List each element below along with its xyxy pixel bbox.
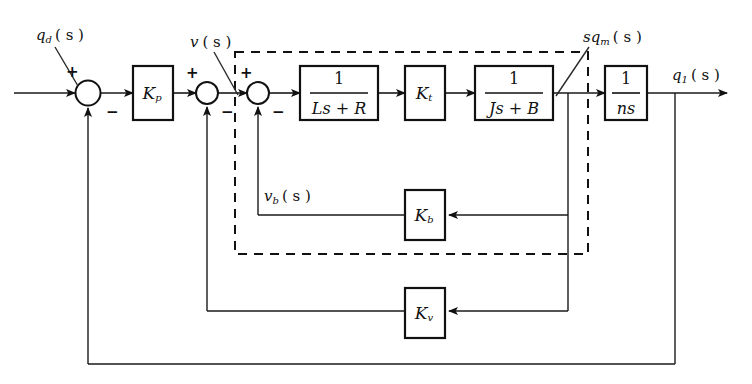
position-error-summing-junction [76, 81, 101, 106]
sum2-plus-sign: + [186, 64, 199, 82]
gear-denominator: ns [617, 99, 636, 118]
electrical-numerator: 1 [334, 69, 344, 88]
velocity-feedback-path [207, 107, 568, 311]
input-signal-label: qd( s ) [36, 26, 84, 45]
sum3-plus-sign: + [240, 64, 253, 82]
sum1-minus-sign: − [106, 103, 119, 121]
sum1-plus-sign: + [66, 63, 79, 81]
motor-rate-label: sqm( s ) [583, 28, 642, 47]
sum3-minus-sign: − [272, 103, 285, 121]
output-signal-label: q1( s ) [672, 66, 720, 85]
sqm-leader-line [556, 47, 589, 96]
gear-numerator: 1 [621, 69, 631, 88]
block-diagram-canvas: Kp 1 Ls + R Kt 1 Js + B 1 ns Kb Kv qd( s… [0, 0, 752, 384]
diagram-svg: Kp 1 Ls + R Kt 1 Js + B 1 ns Kb Kv qd( s… [0, 0, 752, 384]
sum2-minus-sign: − [221, 103, 234, 121]
mechanical-denominator: Js + B [486, 99, 539, 118]
electrical-denominator: Ls + R [311, 99, 366, 118]
back-emf-label: vb( s ) [264, 187, 311, 206]
velocity-error-summing-junction [196, 82, 218, 104]
velocity-command-label: v( s ) [190, 33, 231, 51]
position-feedback-path [88, 93, 675, 364]
mechanical-numerator: 1 [509, 69, 519, 88]
back-emf-summing-junction [247, 82, 269, 104]
